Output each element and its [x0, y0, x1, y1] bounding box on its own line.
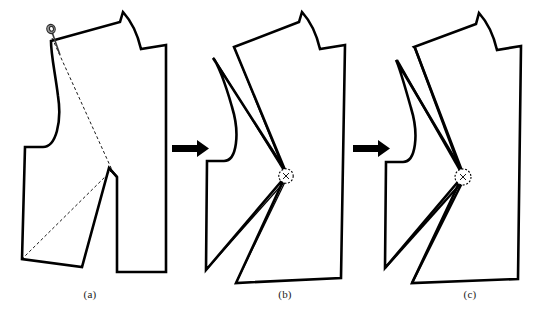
caption-a: (a)	[60, 288, 120, 300]
panel-b-outline	[206, 12, 345, 283]
pattern-diagram	[0, 0, 534, 324]
diagram-canvas: (a) (b) (c)	[0, 0, 534, 324]
panel-b-group	[206, 12, 345, 283]
arrow-right-icon-1	[172, 140, 209, 157]
arrow-1-group	[172, 140, 209, 157]
pivot-point-c-marker	[455, 169, 471, 185]
arrow-2-group	[353, 140, 390, 157]
panel-a-group	[22, 12, 166, 272]
caption-c: (c)	[440, 288, 500, 300]
arrow-right-icon-2	[353, 140, 390, 157]
panel-c-group	[385, 13, 521, 283]
pivot-point-b-marker	[279, 169, 293, 183]
caption-b: (b)	[255, 288, 315, 300]
panel-a-outline	[22, 12, 166, 272]
